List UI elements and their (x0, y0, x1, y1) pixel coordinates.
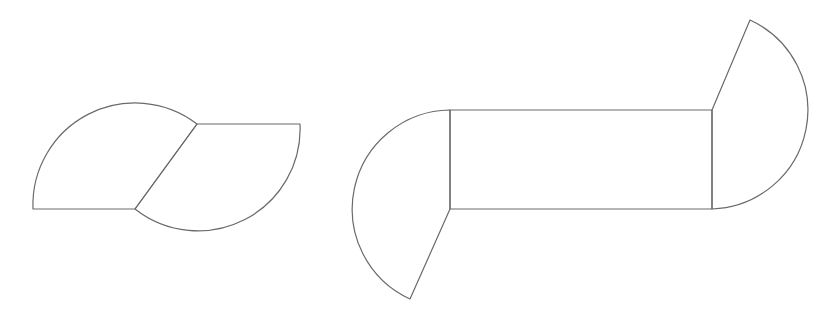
left-attached-sector (352, 110, 450, 299)
rectangle-with-two-sectors (352, 20, 808, 299)
right-attached-sector (712, 20, 808, 209)
left-sector-outline (33, 103, 197, 209)
right-sector-outline (135, 124, 300, 231)
two-sector-shape (33, 103, 300, 231)
center-rectangle (450, 110, 712, 209)
diagram-canvas (0, 0, 839, 315)
